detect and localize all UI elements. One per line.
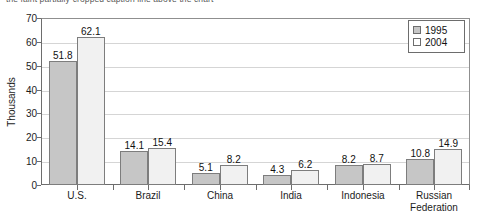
plot-area (41, 18, 470, 185)
legend-item-2004[interactable]: 2004 (413, 36, 460, 48)
y-axis-tick-mark (37, 137, 41, 138)
y-axis-tick-mark (37, 161, 41, 162)
y-axis-tick-mark (37, 18, 41, 19)
clipped-caption: the faint partially-cropped caption line… (6, 0, 306, 4)
legend-item-1995[interactable]: 1995 (413, 24, 460, 36)
legend[interactable]: 1995 2004 (408, 20, 465, 53)
x-axis-category-label: India (280, 190, 302, 202)
gridline (42, 67, 469, 68)
legend-swatch-2004-icon (413, 38, 421, 46)
x-axis-category-label: Indonesia (341, 190, 384, 202)
gridline (42, 138, 469, 139)
y-axis-tick-mark (37, 113, 41, 114)
legend-label-1995: 1995 (425, 25, 447, 36)
y-axis-tick-mark (37, 42, 41, 43)
legend-label-2004: 2004 (425, 37, 447, 48)
x-axis-labels: U.S.BrazilChinaIndiaIndonesiaRussianFede… (41, 190, 470, 220)
y-axis-title: Thousands (6, 62, 17, 142)
y-axis-tick-mark (37, 66, 41, 67)
x-axis-category-label: China (207, 190, 233, 202)
y-axis-title-host: Thousands (2, 18, 16, 185)
legend-swatch-1995-icon (413, 26, 421, 34)
gridline (42, 43, 469, 44)
y-axis-tick-mark (37, 90, 41, 91)
gridline (42, 91, 469, 92)
bar-chart-figure: the faint partially-cropped caption line… (0, 0, 480, 222)
gridline (42, 162, 469, 163)
x-axis-category-label: U.S. (67, 190, 86, 202)
x-axis-category-label: Brazil (135, 190, 160, 202)
x-axis-category-label: RussianFederation (410, 190, 458, 214)
gridline (42, 114, 469, 115)
